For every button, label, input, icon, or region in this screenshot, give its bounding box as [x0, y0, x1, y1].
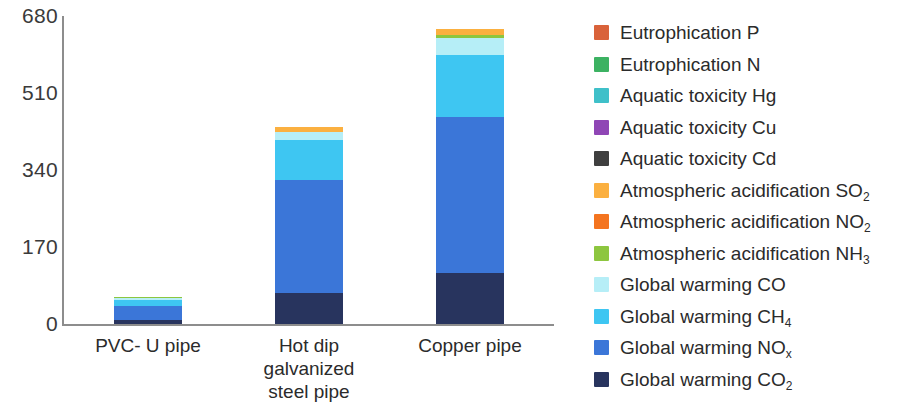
legend-label-subscript: 3: [863, 253, 870, 267]
legend-color-swatch: [594, 277, 609, 292]
legend-color-swatch: [594, 25, 609, 40]
legend-color-swatch: [594, 214, 609, 229]
legend-label-subscript: 2: [786, 379, 793, 393]
legend-color-swatch: [594, 57, 609, 72]
bar-segment[interactable]: [436, 55, 504, 117]
legend-item[interactable]: Eutrophication P: [594, 20, 906, 52]
bar-segment[interactable]: [275, 293, 343, 324]
legend-item[interactable]: Aquatic toxicity Cd: [594, 146, 906, 178]
legend-item-label: Atmospheric acidification SO2: [620, 178, 870, 203]
bar[interactable]: [114, 297, 182, 324]
legend-item-label: Eutrophication N: [620, 52, 760, 77]
bar-segment[interactable]: [275, 180, 343, 293]
legend-color-swatch: [594, 151, 609, 166]
y-axis-tick-label: 0: [2, 313, 58, 334]
legend-item[interactable]: Global warming CH4: [594, 304, 906, 336]
x-axis-line: [62, 324, 554, 326]
x-axis-label-line: Hot dip: [224, 334, 394, 357]
legend-item-label: Global warming CO: [620, 272, 786, 297]
bar-segment[interactable]: [275, 132, 343, 140]
legend-item-label: Eutrophication P: [620, 20, 759, 45]
plot-area: 0170340510680 PVC- U pipeHot dipgalvaniz…: [0, 0, 566, 412]
bar-group: [64, 16, 554, 324]
chart-legend: Eutrophication PEutrophication NAquatic …: [594, 20, 906, 398]
x-axis-label-line: PVC- U pipe: [63, 334, 233, 357]
legend-item-label: Aquatic toxicity Cu: [620, 115, 776, 140]
legend-color-swatch: [594, 246, 609, 261]
bar-segment[interactable]: [275, 140, 343, 180]
y-axis-tick-labels: 0170340510680: [0, 0, 58, 412]
legend-color-swatch: [594, 309, 609, 324]
legend-item-label: Aquatic toxicity Hg: [620, 83, 776, 108]
legend-item-label: Global warming CO2: [620, 367, 792, 392]
x-axis-label: Hot dipgalvanizedsteel pipe: [224, 334, 394, 403]
legend-color-swatch: [594, 183, 609, 198]
bar-segment[interactable]: [114, 306, 182, 320]
legend-label-subscript: 4: [785, 316, 792, 330]
legend-item-label: Atmospheric acidification NH3: [620, 241, 870, 266]
bar[interactable]: [275, 127, 343, 324]
legend-label-subscript: x: [786, 347, 792, 361]
bar-segment[interactable]: [436, 117, 504, 272]
legend-item-label: Global warming NOx: [620, 335, 792, 360]
y-axis-tick-label: 340: [2, 159, 58, 180]
bar[interactable]: [436, 29, 504, 324]
y-axis-tick-label: 170: [2, 236, 58, 257]
y-axis-tick-label: 680: [2, 5, 58, 26]
bar-segment[interactable]: [436, 273, 504, 324]
legend-item[interactable]: Global warming NOx: [594, 335, 906, 367]
legend-item[interactable]: Global warming CO: [594, 272, 906, 304]
legend-item[interactable]: Atmospheric acidification SO2: [594, 178, 906, 210]
legend-color-swatch: [594, 372, 609, 387]
legend-item[interactable]: Eutrophication N: [594, 52, 906, 84]
x-axis-label: PVC- U pipe: [63, 334, 233, 357]
stacked-bar-chart: 0170340510680 PVC- U pipeHot dipgalvaniz…: [0, 0, 906, 412]
legend-color-swatch: [594, 88, 609, 103]
legend-label-subscript: 2: [863, 190, 870, 204]
x-axis-label-line: steel pipe: [224, 380, 394, 403]
legend-item[interactable]: Aquatic toxicity Hg: [594, 83, 906, 115]
x-axis-label-line: Copper pipe: [385, 334, 555, 357]
y-axis-tick-label: 510: [2, 82, 58, 103]
legend-item[interactable]: Global warming CO2: [594, 367, 906, 399]
x-axis-category-labels: PVC- U pipeHot dipgalvanizedsteel pipeCo…: [64, 334, 554, 412]
legend-item[interactable]: Atmospheric acidification NH3: [594, 241, 906, 273]
x-axis-label-line: galvanized: [224, 357, 394, 380]
legend-color-swatch: [594, 120, 609, 135]
legend-item-label: Global warming CH4: [620, 304, 791, 329]
legend-item[interactable]: Atmospheric acidification NO2: [594, 209, 906, 241]
legend-color-swatch: [594, 340, 609, 355]
legend-item[interactable]: Aquatic toxicity Cu: [594, 115, 906, 147]
legend-label-subscript: 2: [864, 221, 871, 235]
legend-item-label: Aquatic toxicity Cd: [620, 146, 776, 171]
bar-segment[interactable]: [436, 38, 504, 55]
legend-item-label: Atmospheric acidification NO2: [620, 209, 871, 234]
x-axis-label: Copper pipe: [385, 334, 555, 357]
bar-segment[interactable]: [114, 320, 182, 324]
